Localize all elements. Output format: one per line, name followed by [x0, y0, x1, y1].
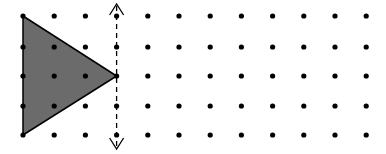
- grid-dot: [301, 13, 306, 18]
- grid-dot: [208, 13, 213, 18]
- grid-dot: [52, 13, 57, 18]
- grid-dot: [20, 44, 25, 49]
- grid-dot: [176, 73, 181, 78]
- grid-dot: [301, 132, 306, 137]
- grid-dot: [52, 73, 57, 78]
- grid-dot: [20, 103, 25, 108]
- grid-dot: [52, 44, 57, 49]
- grid-dot: [332, 44, 337, 49]
- grid-dot: [301, 44, 306, 49]
- grid-dot: [145, 103, 150, 108]
- grid-dot: [239, 73, 244, 78]
- grid-dot: [270, 73, 275, 78]
- grid-dot: [208, 103, 213, 108]
- grid-dot: [208, 44, 213, 49]
- grid-dot: [332, 103, 337, 108]
- grid-dot: [176, 132, 181, 137]
- grid-dot: [145, 13, 150, 18]
- grid-dot: [270, 44, 275, 49]
- grid-dot: [364, 13, 369, 18]
- grid-dot: [114, 73, 119, 78]
- grid-dot: [332, 132, 337, 137]
- grid-dot: [364, 44, 369, 49]
- grid-dot: [52, 103, 57, 108]
- grid-dot: [332, 13, 337, 18]
- grid-dot: [270, 13, 275, 18]
- triangle-shape: [23, 16, 117, 135]
- grid-dot: [176, 44, 181, 49]
- grid-dot: [83, 44, 88, 49]
- grid-dot: [83, 132, 88, 137]
- grid-dot: [145, 132, 150, 137]
- shaded-triangle: [23, 16, 117, 135]
- grid-dot: [364, 73, 369, 78]
- grid-dot: [239, 44, 244, 49]
- grid-dot: [20, 132, 25, 137]
- grid-dot: [20, 13, 25, 18]
- grid-dot: [364, 132, 369, 137]
- grid-dot: [208, 132, 213, 137]
- grid-dot: [208, 73, 213, 78]
- grid-dot: [301, 73, 306, 78]
- grid-dot: [364, 103, 369, 108]
- grid-dot: [239, 103, 244, 108]
- dot-grid-diagram: [0, 0, 386, 154]
- grid-dot: [83, 73, 88, 78]
- grid-dot: [301, 103, 306, 108]
- grid-dot: [52, 132, 57, 137]
- grid-dot: [239, 132, 244, 137]
- grid-dot: [83, 103, 88, 108]
- grid-dot: [239, 13, 244, 18]
- grid-dot: [176, 13, 181, 18]
- grid-dot: [20, 73, 25, 78]
- diagram-canvas: [0, 0, 386, 154]
- grid-dot: [270, 103, 275, 108]
- grid-dot: [83, 13, 88, 18]
- grid-dot: [270, 132, 275, 137]
- grid-dot: [332, 73, 337, 78]
- grid-dot: [145, 44, 150, 49]
- grid-dot: [176, 103, 181, 108]
- grid-dot: [145, 73, 150, 78]
